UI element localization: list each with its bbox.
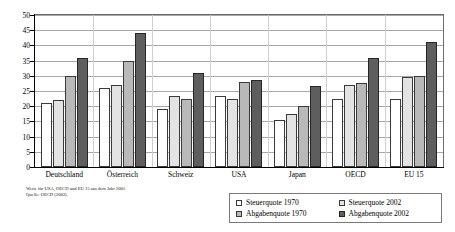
group-separator <box>152 15 153 167</box>
bar <box>169 96 180 167</box>
bar <box>193 73 204 167</box>
category-label: USA <box>210 170 268 180</box>
bar <box>53 100 64 167</box>
y-tick-label: 5 <box>4 148 30 156</box>
legend: Steuerquote 1970Steuerquote 2002Abgabenq… <box>229 193 442 223</box>
group-separator <box>326 15 327 167</box>
group-separator <box>385 15 386 167</box>
x-axis-line <box>34 167 444 168</box>
category-label: Japan <box>268 170 326 180</box>
legend-swatch-s2002 <box>339 200 345 206</box>
group-separator <box>210 15 211 167</box>
bar-group <box>210 15 268 167</box>
bar <box>157 109 168 167</box>
bar <box>239 82 250 167</box>
bar <box>65 76 76 167</box>
y-tick-label: 15 <box>4 118 30 126</box>
bar <box>368 58 379 167</box>
bars-area <box>35 15 443 167</box>
chart-page: 05101520253035404550 DeutschlandÖsterrei… <box>0 0 455 232</box>
category-label: Schweiz <box>152 170 210 180</box>
legend-item: Abgabenquote 2002 <box>339 209 436 218</box>
bar-group <box>326 15 384 167</box>
bar <box>251 80 262 167</box>
bar <box>99 88 110 167</box>
category-label: Österreich <box>93 170 151 180</box>
bar-group <box>35 15 93 167</box>
category-label: Deutschland <box>35 170 93 180</box>
group-separator <box>268 15 269 167</box>
y-tick-label: 0 <box>4 164 30 172</box>
bar <box>344 85 355 167</box>
legend-label: Abgabenquote 1970 <box>246 209 307 218</box>
group-separator <box>93 15 94 167</box>
bar <box>414 76 425 167</box>
bar <box>181 99 192 167</box>
bar-group <box>152 15 210 167</box>
bar <box>356 83 367 167</box>
legend-swatch-a1970 <box>236 211 242 217</box>
legend-swatch-s1970 <box>236 200 242 206</box>
bar <box>426 42 437 167</box>
y-tick-label: 35 <box>4 57 30 65</box>
y-tick-label: 10 <box>4 133 30 141</box>
legend-swatch-a2002 <box>339 211 345 217</box>
bar <box>41 103 52 167</box>
footnote: Werte für USA, OECD und EU 15 aus dem Ja… <box>26 186 211 198</box>
category-label: EU 15 <box>385 170 443 180</box>
bar <box>332 99 343 167</box>
bar <box>286 114 297 167</box>
bar <box>215 96 226 167</box>
bar-group <box>93 15 151 167</box>
bar <box>77 58 88 167</box>
legend-label: Abgabenquote 2002 <box>349 209 410 218</box>
bar <box>402 77 413 167</box>
bar <box>274 120 285 167</box>
y-tick-label: 20 <box>4 103 30 111</box>
bar <box>135 33 146 167</box>
y-tick-label: 40 <box>4 42 30 50</box>
x-axis-category-labels: DeutschlandÖsterreichSchweizUSAJapanOECD… <box>35 170 443 184</box>
legend-item: Steuerquote 1970 <box>236 198 333 207</box>
y-tick-label: 30 <box>4 72 30 80</box>
bar-group <box>385 15 443 167</box>
legend-label: Steuerquote 1970 <box>246 198 299 207</box>
y-tick-label: 25 <box>4 88 30 96</box>
footnote-line-2: Quelle: OECD (2003). <box>26 192 211 198</box>
category-label: OECD <box>326 170 384 180</box>
legend-item: Steuerquote 2002 <box>339 198 436 207</box>
y-axis-labels: 05101520253035404550 <box>0 14 30 168</box>
bar <box>310 86 321 167</box>
bar <box>123 61 134 167</box>
legend-label: Steuerquote 2002 <box>349 198 402 207</box>
bar-group <box>268 15 326 167</box>
bar <box>111 85 122 167</box>
bar <box>227 99 238 167</box>
bar <box>390 99 401 167</box>
y-tick-label: 45 <box>4 27 30 35</box>
y-tick-label: 50 <box>4 12 30 20</box>
bar <box>298 106 309 167</box>
legend-item: Abgabenquote 1970 <box>236 209 333 218</box>
